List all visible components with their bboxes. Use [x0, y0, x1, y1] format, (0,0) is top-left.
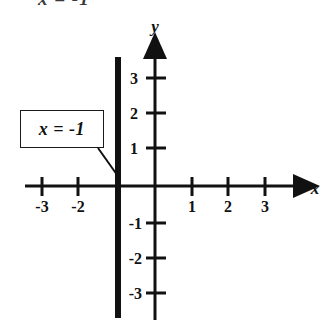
x-tick-label-neg2: -2	[71, 198, 84, 215]
y-tick-label-neg2: -2	[129, 250, 142, 267]
x-tick-label-1: 1	[188, 198, 196, 215]
coordinate-plane-svg: -3 -2 1 2 3 3 2 1 -1 -2 -3 x y	[0, 0, 332, 329]
x-tick-label-neg3: -3	[35, 198, 48, 215]
graph-figure: x = -1 -3	[0, 0, 332, 329]
equation-callout-label: x = -1	[39, 119, 85, 140]
x-tick-label-3: 3	[261, 198, 269, 215]
y-axis-label: y	[149, 17, 159, 36]
x-axis-label: x	[310, 179, 320, 198]
equation-callout-box: x = -1	[20, 110, 104, 148]
y-tick-label-3: 3	[130, 70, 138, 87]
y-tick-label-neg3: -3	[129, 285, 142, 302]
y-tick-label-1: 1	[130, 140, 138, 157]
y-tick-label-neg1: -1	[129, 215, 142, 232]
x-tick-label-2: 2	[224, 198, 232, 215]
y-tick-label-2: 2	[130, 105, 138, 122]
